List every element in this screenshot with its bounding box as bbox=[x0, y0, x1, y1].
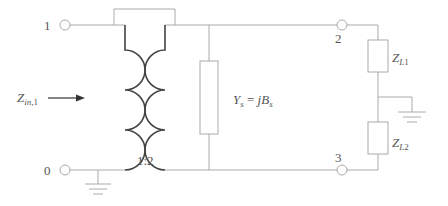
arrow-right-icon bbox=[48, 95, 85, 102]
terminal-0-label: 0 bbox=[44, 164, 51, 177]
load-zl2-box bbox=[368, 122, 388, 154]
terminal-0 bbox=[60, 165, 70, 175]
terminal-1-label: 1 bbox=[44, 19, 51, 32]
secondary-coil-icon bbox=[145, 25, 165, 170]
shunt-admittance-label: Ys = jBs bbox=[233, 93, 273, 109]
primary-coil-icon bbox=[125, 25, 145, 170]
input-impedance-label: Zin,1 bbox=[17, 91, 38, 107]
terminal-3-label: 3 bbox=[335, 151, 342, 164]
shunt-admittance-box bbox=[200, 61, 218, 134]
ground-lead-load bbox=[378, 97, 412, 112]
load-zl1-box bbox=[368, 40, 388, 72]
transformer-coils bbox=[125, 25, 165, 170]
load-zl2-label: ZL2 bbox=[392, 136, 409, 152]
load-zl1-label: ZL1 bbox=[392, 51, 409, 67]
terminal-1 bbox=[60, 20, 70, 30]
circuit-diagram bbox=[0, 0, 448, 206]
transformer-ratio-label: 1:2 bbox=[137, 154, 154, 167]
terminal-2 bbox=[337, 20, 347, 30]
transformer-bracket bbox=[114, 9, 175, 25]
terminal-3 bbox=[337, 165, 347, 175]
terminal-2-label: 2 bbox=[335, 32, 342, 45]
